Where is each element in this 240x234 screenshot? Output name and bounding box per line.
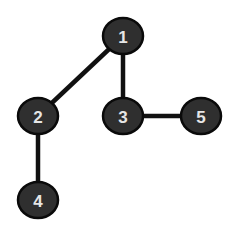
node-5: 5 [181,98,221,134]
node-2: 2 [18,98,58,134]
node-label: 4 [33,192,43,211]
node-label: 5 [196,108,205,127]
node-3: 3 [103,98,143,134]
graph-canvas: 12354 [0,0,240,234]
node-4: 4 [18,182,58,218]
node-1: 1 [103,18,143,54]
node-label: 2 [33,108,42,127]
nodes-layer: 12354 [18,18,221,218]
node-label: 1 [118,28,127,47]
node-label: 3 [118,108,127,127]
